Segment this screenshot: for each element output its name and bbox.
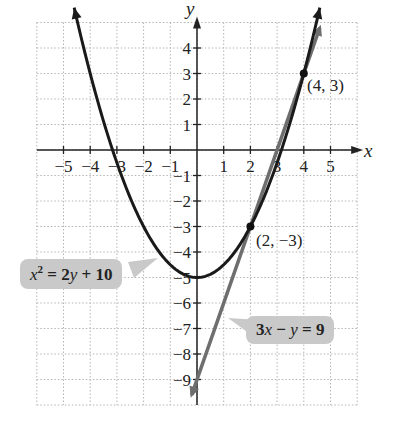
intersection-point bbox=[246, 223, 254, 231]
parabola-equation-callout: x2 = 2y + 10 bbox=[20, 259, 122, 289]
y-axis-label: y bbox=[184, 0, 195, 19]
x-tick-label: 1 bbox=[219, 157, 228, 176]
x-tick-label: −4 bbox=[81, 157, 100, 176]
var-x: x bbox=[265, 320, 273, 339]
y-tick-label: −6 bbox=[173, 294, 191, 313]
var-y: y bbox=[290, 320, 298, 339]
x-tick-label: −2 bbox=[135, 157, 153, 176]
var-x: x bbox=[30, 265, 38, 284]
y-tick-label: −3 bbox=[173, 218, 191, 237]
y-tick-label: 4 bbox=[183, 39, 192, 58]
eq-part: + 10 bbox=[77, 265, 112, 284]
graph-plot: −5−4−3−2−1123454321−1−2−3−4−5−6−7−8−9 x … bbox=[0, 0, 394, 422]
line-equation-callout: 3x − y = 9 bbox=[246, 316, 334, 344]
y-tick-label: 2 bbox=[183, 90, 192, 109]
y-tick-label: −8 bbox=[173, 345, 191, 364]
point-label-2-neg3: (2, −3) bbox=[256, 231, 302, 250]
eq-part: = 9 bbox=[298, 320, 325, 339]
y-tick-label: −4 bbox=[173, 243, 192, 262]
x-axis-label: x bbox=[363, 140, 373, 161]
x-tick-label: 2 bbox=[246, 157, 255, 176]
eq-part: = 2 bbox=[43, 265, 70, 284]
y-tick-label: 1 bbox=[183, 116, 192, 135]
x-tick-label: −5 bbox=[54, 157, 72, 176]
y-tick-label: −1 bbox=[173, 167, 191, 186]
point-label-4-3: (4, 3) bbox=[307, 76, 344, 95]
y-tick-label: −7 bbox=[173, 320, 192, 339]
x-tick-label: 4 bbox=[300, 157, 309, 176]
eq-part: − bbox=[272, 320, 290, 339]
y-tick-label: −5 bbox=[173, 269, 191, 288]
y-tick-label: 3 bbox=[183, 65, 192, 84]
y-tick-label: −2 bbox=[173, 192, 191, 211]
eq-part: 3 bbox=[256, 320, 265, 339]
axes bbox=[37, 17, 363, 406]
parabola-callout-pointer bbox=[128, 258, 158, 278]
y-tick-label: −9 bbox=[173, 371, 191, 390]
x-tick-label: 5 bbox=[326, 157, 335, 176]
